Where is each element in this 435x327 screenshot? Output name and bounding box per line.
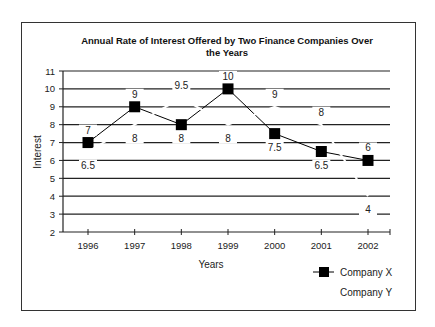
company-x-data-label-1999: 10 bbox=[222, 71, 234, 82]
legend: Company X Company Y bbox=[313, 267, 393, 298]
legend-company-y-label: Company Y bbox=[340, 287, 392, 298]
y-axis-ticks: 234567891011 bbox=[44, 66, 63, 238]
line-chart: Annual Rate of Interest Offered by Two F… bbox=[0, 0, 435, 327]
y-tick-label-11: 11 bbox=[45, 66, 55, 77]
company-x-marker-1996 bbox=[83, 137, 94, 148]
x-tick-label-2000: 2000 bbox=[264, 240, 285, 251]
x-tick-label-1999: 1999 bbox=[217, 240, 238, 251]
company-x-marker-2001 bbox=[316, 146, 327, 157]
y-tick-label-2: 2 bbox=[50, 227, 55, 238]
y-tick-label-8: 8 bbox=[50, 119, 55, 130]
chart-title-line-2: the Years bbox=[206, 47, 248, 58]
company-y-data-label-1997: 8 bbox=[132, 133, 138, 144]
y-axis-label: Interest bbox=[32, 135, 43, 169]
x-tick-label-2001: 2001 bbox=[311, 240, 332, 251]
y-tick-label-4: 4 bbox=[50, 191, 55, 202]
company-x-data-label-1997: 9 bbox=[132, 89, 138, 100]
x-tick-label-1997: 1997 bbox=[124, 240, 145, 251]
y-tick-label-9: 9 bbox=[50, 101, 55, 112]
company-x-data-label-2000: 7.5 bbox=[268, 142, 282, 153]
y-tick-label-3: 3 bbox=[50, 209, 55, 220]
x-tick-label-1998: 1998 bbox=[171, 240, 192, 251]
y-tick-label-7: 7 bbox=[50, 137, 55, 148]
company-x-data-label-1996: 7 bbox=[85, 125, 91, 136]
x-tick-label-1996: 1996 bbox=[77, 240, 98, 251]
y-tick-label-10: 10 bbox=[44, 83, 55, 94]
company-y-data-label-1999: 8 bbox=[225, 133, 231, 144]
legend-company-x-marker bbox=[319, 267, 329, 277]
company-x-marker-2002 bbox=[363, 155, 374, 166]
company-x-marker-1999 bbox=[223, 83, 234, 94]
company-y-data-label-2002: 4 bbox=[365, 204, 371, 215]
x-axis-label: Years bbox=[198, 259, 223, 270]
company-y-data-label-2001: 8 bbox=[319, 107, 325, 118]
chart-title-line-1: Annual Rate of Interest Offered by Two F… bbox=[81, 35, 373, 46]
company-y-data-label-1998: 9.5 bbox=[174, 80, 188, 91]
company-x-marker-2000 bbox=[269, 128, 280, 139]
y-tick-label-6: 6 bbox=[50, 155, 55, 166]
company-x-data-label-1998: 8 bbox=[179, 133, 185, 144]
legend-company-x-label: Company X bbox=[340, 267, 393, 278]
company-x-data-label-2001: 6.5 bbox=[314, 160, 328, 171]
company-y-data-label-1996: 6.5 bbox=[81, 160, 95, 171]
company-y-data-label-2000: 9 bbox=[272, 89, 278, 100]
company-x-data-label-2002: 6 bbox=[365, 142, 371, 153]
company-x-marker-1997 bbox=[129, 101, 140, 112]
y-tick-label-5: 5 bbox=[50, 173, 55, 184]
x-tick-label-2002: 2002 bbox=[357, 240, 378, 251]
company-x-marker-1998 bbox=[176, 119, 187, 130]
